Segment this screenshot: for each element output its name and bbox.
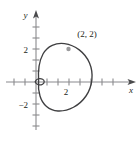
- point-annotation-label: (2, 2): [77, 29, 97, 39]
- data-point-marker: [66, 47, 70, 51]
- y-tick-label-2: 2: [24, 45, 29, 55]
- limacon-outer-loop: [38, 43, 92, 111]
- x-tick-label-2: 2: [64, 87, 69, 97]
- x-axis-label: x: [128, 85, 133, 95]
- limacon-plot: y x 2 −2 2 (2, 2): [0, 0, 140, 146]
- y-axis-label: y: [23, 10, 28, 20]
- y-tick-label-neg2: −2: [18, 100, 28, 110]
- polar-curve-figure: y x 2 −2 2 (2, 2): [0, 0, 140, 146]
